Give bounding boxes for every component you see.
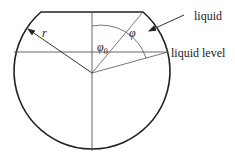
liquid-label: liquid xyxy=(194,9,222,23)
tank-diagram: r φ φ0 liquid liquid level xyxy=(0,0,235,153)
phi-label: φ xyxy=(129,26,136,40)
liquid-level-label: liquid level xyxy=(171,46,226,60)
radius-arrow xyxy=(28,29,92,73)
phi0-label: φ0 xyxy=(97,40,108,56)
radius-label: r xyxy=(42,26,47,40)
phi0-subscript: 0 xyxy=(104,47,108,56)
